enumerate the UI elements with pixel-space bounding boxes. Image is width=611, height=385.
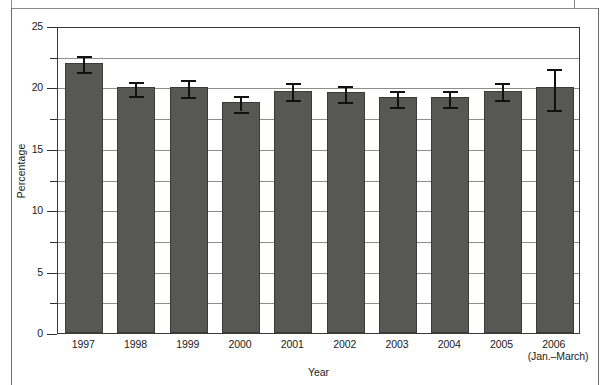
y-tick-minor <box>50 242 57 243</box>
error-bar <box>135 82 137 96</box>
x-tick-label-year: 1998 <box>124 338 147 350</box>
error-bar <box>292 83 294 100</box>
x-tick-label-year: 2004 <box>438 338 461 350</box>
y-tick-label: 10 <box>32 205 43 215</box>
gridline <box>58 58 579 59</box>
bar <box>222 102 260 333</box>
y-tick-major <box>47 27 57 28</box>
bar <box>431 97 469 333</box>
y-axis: Percentage 0510152025 <box>0 0 57 385</box>
error-bar <box>188 80 190 97</box>
y-axis-title: Percentage <box>15 131 27 211</box>
x-tick-label-year: 2001 <box>281 338 304 350</box>
bar <box>327 92 365 333</box>
error-bar-cap-lower <box>181 97 196 99</box>
x-tick-label: 1997 <box>57 338 109 350</box>
error-bar-cap-lower <box>443 107 458 109</box>
error-bar-cap-lower <box>338 102 353 104</box>
error-bar-cap-upper <box>286 83 301 85</box>
x-tick-label: 2001 <box>266 338 318 350</box>
x-tick-label-year: 2006 <box>542 338 565 350</box>
y-tick-major <box>47 88 57 89</box>
y-tick-label: 0 <box>37 328 43 338</box>
error-bar <box>502 83 504 100</box>
y-tick-label: 25 <box>32 21 43 31</box>
x-tick-label: 2004 <box>423 338 475 350</box>
y-tick-minor <box>50 303 57 304</box>
error-bar <box>397 91 399 107</box>
x-tick-label: 2006(Jan.–March) <box>528 338 580 362</box>
error-bar-cap-upper <box>129 82 144 84</box>
x-axis-title: Year <box>57 366 580 378</box>
bar <box>379 97 417 333</box>
error-bar-cap-lower <box>547 110 562 112</box>
error-bar <box>554 69 556 111</box>
error-bar <box>240 96 242 112</box>
error-bar-cap-upper <box>234 96 249 98</box>
bar <box>65 63 103 333</box>
x-tick-label-year: 2002 <box>333 338 356 350</box>
bar <box>536 87 574 333</box>
x-tick-label-year: 1997 <box>72 338 95 350</box>
bar <box>484 91 522 333</box>
error-bar <box>83 56 85 72</box>
x-tick-label: 2002 <box>319 338 371 350</box>
error-bar-cap-upper <box>77 56 92 58</box>
x-tick-label: 1999 <box>162 338 214 350</box>
error-bar <box>345 86 347 102</box>
error-bar <box>449 91 451 107</box>
y-tick-minor <box>50 58 57 59</box>
x-tick-label-year: 1999 <box>176 338 199 350</box>
error-bar-cap-upper <box>390 91 405 93</box>
plot-area <box>57 27 580 334</box>
bar <box>170 87 208 333</box>
y-tick-major <box>47 273 57 274</box>
bar-chart: Percentage 0510152025 Year 1997199819992… <box>0 0 611 385</box>
x-tick-label-year: 2005 <box>490 338 513 350</box>
bar <box>117 87 155 333</box>
x-tick-label: 2005 <box>475 338 527 350</box>
error-bar-cap-upper <box>547 69 562 71</box>
y-tick-major <box>47 334 57 335</box>
error-bar-cap-lower <box>234 112 249 114</box>
y-tick-major <box>47 211 57 212</box>
y-tick-label: 5 <box>37 267 43 277</box>
y-tick-label: 15 <box>32 144 43 154</box>
x-tick-label: 1998 <box>109 338 161 350</box>
bar <box>274 91 312 333</box>
y-tick-minor <box>50 119 57 120</box>
x-tick-label-sublabel: (Jan.–March) <box>528 350 580 362</box>
x-tick-label: 2003 <box>371 338 423 350</box>
error-bar-cap-upper <box>338 86 353 88</box>
error-bar-cap-lower <box>390 107 405 109</box>
error-bar-cap-lower <box>129 96 144 98</box>
error-bar-cap-lower <box>77 72 92 74</box>
y-tick-label: 20 <box>32 82 43 92</box>
y-tick-minor <box>50 181 57 182</box>
x-tick-label: 2000 <box>214 338 266 350</box>
error-bar-cap-lower <box>286 100 301 102</box>
error-bar-cap-upper <box>443 91 458 93</box>
error-bar-cap-upper <box>495 83 510 85</box>
x-tick-label-year: 2003 <box>385 338 408 350</box>
error-bar-cap-upper <box>181 80 196 82</box>
y-tick-major <box>47 150 57 151</box>
error-bar-cap-lower <box>495 100 510 102</box>
x-tick-label-year: 2000 <box>229 338 252 350</box>
